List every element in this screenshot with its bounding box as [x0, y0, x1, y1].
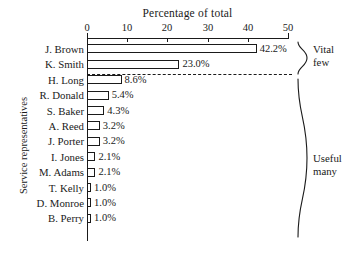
bar [87, 44, 257, 53]
bar-value-label: 1.0% [94, 197, 116, 208]
bar-value-label: 3.2% [103, 120, 125, 131]
category-label: D. Monroe [37, 197, 84, 209]
chart-title: Percentage of total [87, 7, 288, 19]
category-label: J. Brown [45, 43, 84, 55]
bar [87, 121, 100, 130]
category-label: K. Smith [45, 58, 84, 70]
brace-useful-many-label: Useful many [313, 152, 342, 177]
x-tick-label-50: 50 [278, 22, 298, 33]
vital-few-separator [87, 74, 292, 75]
bar-value-label: 1.0% [94, 212, 116, 223]
bar-value-label: 1.0% [94, 182, 116, 193]
brace-vital-few [296, 41, 310, 75]
brace-vital-few-label: Vital few [313, 43, 334, 68]
bar-value-label: 42.2% [260, 43, 287, 54]
bar-value-label: 5.4% [112, 89, 134, 100]
category-label: J. Porter [48, 135, 84, 147]
bar [87, 75, 122, 84]
category-label: A. Reed [49, 120, 84, 132]
x-axis-tick-50 [288, 33, 289, 39]
category-label: S. Baker [47, 105, 84, 117]
bar [87, 168, 95, 177]
bar-value-label: 3.2% [103, 135, 125, 146]
category-label: T. Kelly [49, 182, 84, 194]
bar [87, 91, 109, 100]
category-label: R. Donald [40, 89, 84, 101]
bar-value-label: 8.6% [125, 74, 147, 85]
category-label: H. Long [48, 74, 84, 86]
brace-vital-few-label-line1: Vital [313, 43, 334, 56]
bar [87, 198, 91, 207]
bar [87, 183, 91, 192]
brace-useful-many-label-line1: Useful [313, 152, 342, 165]
bar-value-label: 2.1% [98, 166, 120, 177]
category-label: M. Adams [39, 166, 84, 178]
x-tick-label-0: 0 [77, 22, 97, 33]
pareto-chart: Percentage of total 0 10 20 30 40 50 Ser… [0, 0, 356, 261]
bar [87, 106, 104, 115]
x-tick-label-10: 10 [117, 22, 137, 33]
brace-useful-many-label-line2: many [313, 165, 342, 178]
bar [87, 152, 95, 161]
brace-vital-few-label-line2: few [313, 56, 334, 69]
bar [87, 60, 179, 69]
x-axis-line [87, 38, 288, 39]
bar-value-label: 2.1% [98, 151, 120, 162]
x-tick-label-20: 20 [157, 22, 177, 33]
bar [87, 214, 91, 223]
brace-useful-many [296, 78, 310, 238]
category-label: B. Perry [48, 212, 84, 224]
bar [87, 137, 100, 146]
x-tick-label-40: 40 [238, 22, 258, 33]
bar-value-label: 4.3% [107, 105, 129, 116]
category-label: I. Jones [51, 151, 84, 163]
bar-value-label: 23.0% [182, 58, 209, 69]
x-tick-label-30: 30 [198, 22, 218, 33]
